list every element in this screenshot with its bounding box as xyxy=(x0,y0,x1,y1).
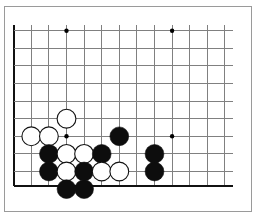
star-point-icon xyxy=(64,134,68,138)
star-point-icon xyxy=(64,29,68,33)
black-stone[interactable] xyxy=(40,162,59,181)
white-stone[interactable] xyxy=(110,162,129,181)
white-stone[interactable] xyxy=(40,127,59,146)
go-diagram-figure xyxy=(0,0,260,220)
star-point-icon xyxy=(170,29,174,33)
black-stone[interactable] xyxy=(92,145,111,164)
white-stone[interactable] xyxy=(57,109,76,128)
white-stone[interactable] xyxy=(22,127,41,146)
black-stone[interactable] xyxy=(110,127,129,146)
star-point-icon xyxy=(170,134,174,138)
white-stone[interactable] xyxy=(57,145,76,164)
white-stone[interactable] xyxy=(75,145,94,164)
black-stone[interactable] xyxy=(57,180,76,199)
white-stone[interactable] xyxy=(57,162,76,181)
black-stone[interactable] xyxy=(145,162,164,181)
black-stone[interactable] xyxy=(145,145,164,164)
white-stone[interactable] xyxy=(92,162,111,181)
black-stone[interactable] xyxy=(75,180,94,199)
black-stone[interactable] xyxy=(75,162,94,181)
go-board[interactable] xyxy=(0,0,260,220)
black-stone[interactable] xyxy=(40,145,59,164)
